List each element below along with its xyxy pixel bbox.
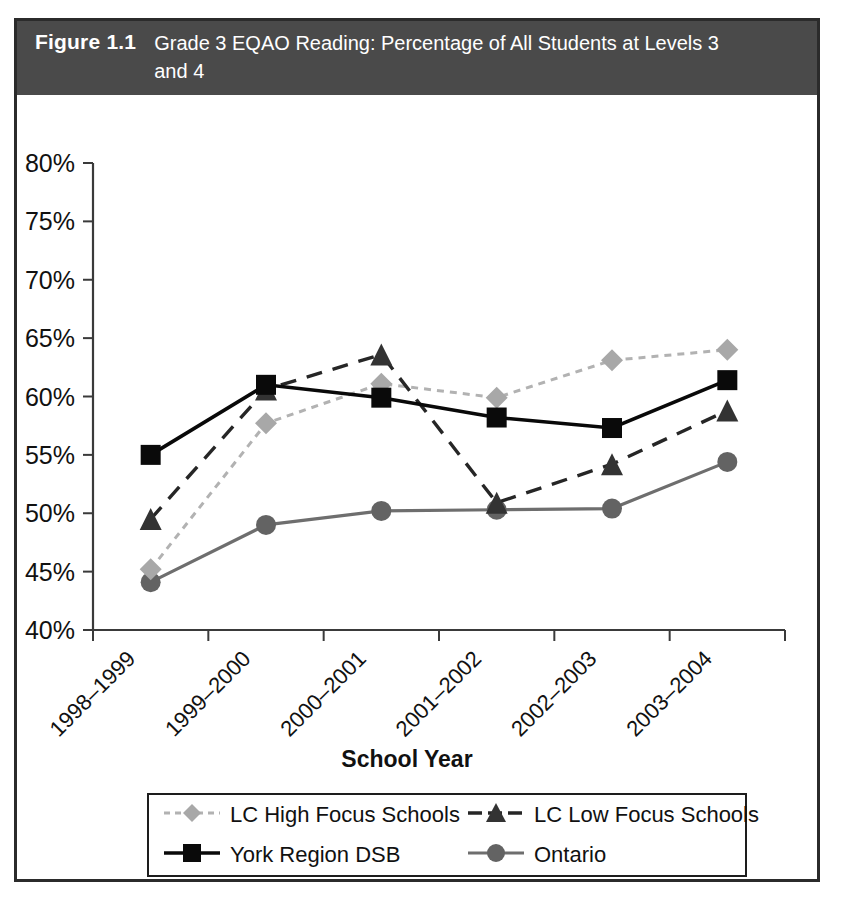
data-point — [601, 453, 623, 475]
legend-label: LC High Focus Schools — [230, 802, 460, 828]
legend-label: Ontario — [534, 842, 606, 868]
y-tick-label: 80% — [25, 149, 75, 177]
x-axis-title: School Year — [341, 746, 472, 772]
x-tick-label: 2003–2004 — [621, 646, 717, 742]
series-layer — [140, 339, 739, 592]
figure-title: Grade 3 EQAO Reading: Percentage of All … — [154, 30, 754, 85]
legend-entry-york-region-dsb[interactable]: York Region DSB — [149, 842, 467, 868]
data-point — [716, 400, 738, 422]
figure-frame: Figure 1.1 Grade 3 EQAO Reading: Percent… — [14, 18, 820, 882]
triangle-marker-icon — [467, 802, 525, 828]
y-tick-label: 60% — [25, 383, 75, 411]
line-chart: 40%45%50%55%60%65%70%75%80% 1998–1999199… — [17, 95, 817, 881]
legend-label: York Region DSB — [230, 842, 400, 868]
data-point — [370, 343, 392, 365]
series-york-region-dsb — [141, 370, 738, 465]
data-point — [717, 452, 737, 472]
legend-label: LC Low Focus Schools — [534, 802, 759, 828]
x-tick-label: 2001–2002 — [391, 646, 487, 742]
data-point — [256, 515, 276, 535]
data-point — [602, 418, 622, 438]
data-point — [487, 408, 507, 428]
data-point — [601, 349, 623, 371]
y-tick-label: 65% — [25, 324, 75, 352]
square-marker-icon — [163, 842, 221, 868]
x-tick-label: 1998–1999 — [45, 646, 141, 742]
chart-legend: LC High Focus Schools LC Low Focus Schoo… — [147, 793, 747, 877]
data-point — [602, 499, 622, 519]
diamond-marker-icon — [163, 802, 221, 828]
x-tick-label: 2000–2001 — [275, 646, 371, 742]
plot-area: 40%45%50%55%60%65%70%75%80% 1998–1999199… — [17, 95, 817, 881]
legend-entry-lc-high-focus-schools[interactable]: LC High Focus Schools — [149, 802, 467, 828]
data-point — [371, 388, 391, 408]
y-tick-label: 40% — [25, 616, 75, 644]
y-tick-label: 45% — [25, 558, 75, 586]
y-tick-label: 50% — [25, 499, 75, 527]
data-point — [256, 375, 276, 395]
data-point — [717, 370, 737, 390]
legend-entry-ontario[interactable]: Ontario — [467, 842, 745, 868]
legend-entry-lc-low-focus-schools[interactable]: LC Low Focus Schools — [467, 802, 745, 828]
figure-number: Figure 1.1 — [35, 30, 136, 54]
legend-row: LC High Focus Schools LC Low Focus Schoo… — [149, 795, 745, 835]
y-tick-label: 55% — [25, 441, 75, 469]
y-tick-label: 70% — [25, 266, 75, 294]
figure-header: Figure 1.1 Grade 3 EQAO Reading: Percent… — [17, 21, 817, 95]
circle-marker-icon — [467, 842, 525, 868]
series-ontario — [141, 452, 738, 592]
data-point — [371, 501, 391, 521]
data-point — [716, 339, 738, 361]
x-tick-labels: 1998–19991999–20002000–20012001–20022002… — [45, 646, 717, 742]
data-point — [486, 387, 508, 409]
x-axis — [93, 630, 785, 641]
legend-row: York Region DSB Ontario — [149, 835, 745, 875]
y-tick-label: 75% — [25, 207, 75, 235]
data-point — [141, 445, 161, 465]
y-axis: 40%45%50%55%60%65%70%75%80% — [25, 149, 93, 644]
series-lc-low-focus-schools — [140, 343, 739, 530]
x-tick-label: 2002–2003 — [506, 646, 602, 742]
x-tick-label: 1999–2000 — [160, 646, 256, 742]
